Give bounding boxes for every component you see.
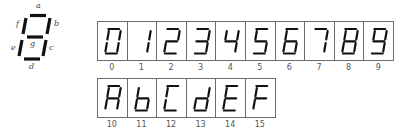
glyph-cell-0: [98, 22, 128, 60]
segment-label-c: c: [49, 44, 53, 52]
glyph-cell-9: [364, 22, 393, 60]
glyph-cell-12: [157, 79, 187, 117]
glyph-value-label: 0: [97, 64, 127, 72]
glyph-value-label: 5: [245, 64, 275, 72]
glyph-value-label: 15: [245, 121, 275, 129]
glyph-value-label: 2: [156, 64, 186, 72]
digits-row: [97, 21, 394, 61]
glyph-value-label: 1: [127, 64, 157, 72]
glyph-value-label: 8: [334, 64, 364, 72]
glyph-cell-14: [216, 79, 246, 117]
hex-letters-row: [97, 78, 276, 118]
glyph-value-label: 6: [275, 64, 305, 72]
seven-segment-glyph-icon: [98, 79, 127, 117]
seven-segment-glyph-icon: [246, 22, 275, 60]
seven-segment-glyph-icon: [157, 79, 186, 117]
glyph-value-label: 7: [304, 64, 334, 72]
glyph-cell-2: [157, 22, 187, 60]
glyph-cell-10: [98, 79, 128, 117]
glyph-cell-15: [246, 79, 275, 117]
glyph-cell-6: [276, 22, 306, 60]
seven-segment-glyph-icon: [187, 22, 216, 60]
glyph-cell-8: [335, 22, 365, 60]
segment-label-f: f: [16, 20, 19, 28]
glyph-cell-4: [216, 22, 246, 60]
seven-segment-glyph-icon: [364, 22, 393, 60]
glyph-cell-7: [305, 22, 335, 60]
glyph-value-label: 10: [97, 121, 127, 129]
seven-segment-glyph-icon: [216, 22, 245, 60]
seven-segment-glyph-icon: [128, 22, 157, 60]
seven-segment-glyph-icon: [98, 22, 127, 60]
segment-label-d: d: [29, 63, 34, 71]
segment-label-g: g: [30, 40, 35, 48]
glyph-cell-13: [187, 79, 217, 117]
glyph-cell-11: [128, 79, 158, 117]
glyph-value-label: 11: [127, 121, 157, 129]
segment-label-b: b: [54, 20, 59, 28]
glyph-value-label: 14: [215, 121, 245, 129]
glyph-value-label: 12: [156, 121, 186, 129]
glyph-value-label: 4: [215, 64, 245, 72]
seven-segment-glyph-icon: [128, 79, 157, 117]
seven-segment-glyph-icon: [157, 22, 186, 60]
seven-segment-glyph-icon: [276, 22, 305, 60]
glyph-value-label: 9: [363, 64, 393, 72]
segment-label-a: a: [36, 2, 41, 10]
seven-segment-glyph-icon: [216, 79, 245, 117]
seven-segment-glyph-icon: [305, 22, 334, 60]
seven-segment-glyph-icon: [187, 79, 216, 117]
segment-legend: a b c d e f g: [0, 0, 80, 75]
glyph-value-label: 3: [186, 64, 216, 72]
glyph-cell-1: [128, 22, 158, 60]
seven-segment-glyph-icon: [335, 22, 364, 60]
segment-label-e: e: [11, 44, 16, 52]
glyph-cell-3: [187, 22, 217, 60]
glyph-cell-5: [246, 22, 276, 60]
glyph-value-label: 13: [186, 121, 216, 129]
seven-segment-glyph-icon: [246, 79, 275, 117]
seven-segment-diagram: [0, 0, 80, 75]
